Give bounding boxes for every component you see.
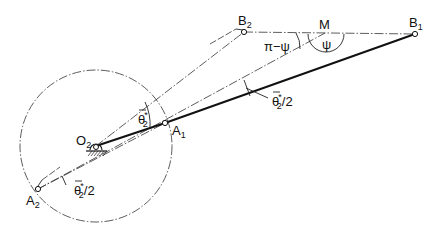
line-a2-a1 xyxy=(38,123,165,189)
label-pi-minus-psi: π−ψ xyxy=(264,39,290,54)
label-a1: A1 xyxy=(172,123,186,140)
joint-b2 xyxy=(241,29,246,34)
crank-link xyxy=(96,123,165,146)
coupler-link xyxy=(165,34,415,123)
label-theta-half-mid: θ*2/2 xyxy=(272,92,293,111)
label-b2: B2 xyxy=(238,13,252,30)
label-m: M xyxy=(319,17,330,32)
coupler-tick-bottom xyxy=(38,180,42,186)
line-a2-m xyxy=(38,33,325,189)
line-b2-b1 xyxy=(244,32,415,34)
label-a2: A2 xyxy=(26,193,40,210)
label-theta-half-lower: θ*2/2 xyxy=(74,181,95,200)
joint-a1 xyxy=(162,120,167,125)
label-psi: ψ xyxy=(322,37,331,52)
label-b1: B1 xyxy=(409,15,423,32)
coupler-position-2 xyxy=(42,167,60,180)
coupler-position-2-top xyxy=(210,29,236,44)
linkage-diagram: O2 A1 A2 B1 B2 M π−ψ ψ θ*2 θ*2/2 θ*2/2 xyxy=(0,0,441,234)
label-theta-star: θ*2 xyxy=(138,110,148,129)
joint-a2 xyxy=(35,186,40,191)
angle-tick-theta-half-lower xyxy=(62,176,66,185)
label-o2: O2 xyxy=(76,133,91,150)
joint-b1 xyxy=(412,31,417,36)
